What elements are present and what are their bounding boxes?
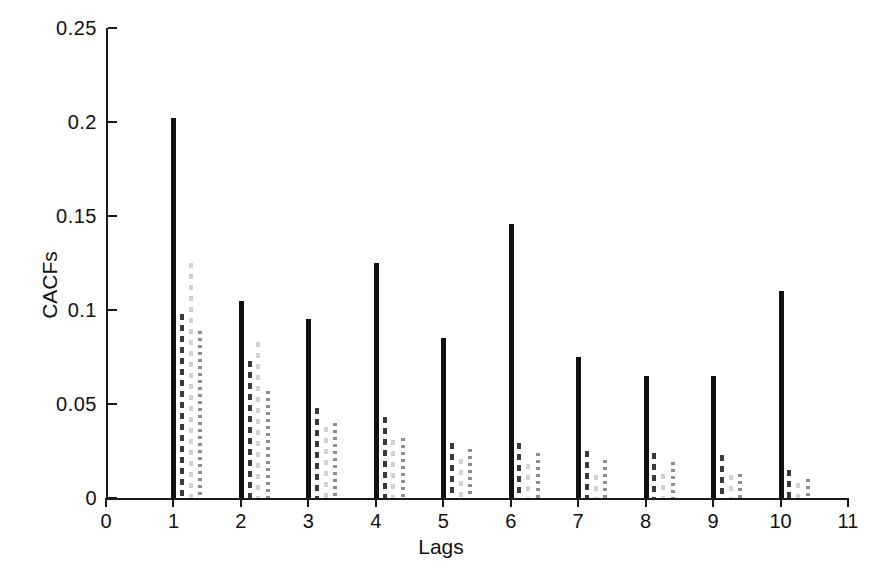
bar-lag4-solid	[374, 263, 379, 498]
bar-lag8-dotted	[671, 462, 675, 498]
bar-lag5-dotted	[468, 449, 472, 498]
bar-lag10-faint	[796, 483, 800, 498]
x-tick-mark	[712, 498, 714, 507]
bar-lag5-dashed	[450, 443, 454, 498]
bar-lag3-dashed	[315, 408, 319, 498]
x-tick-mark	[780, 498, 782, 507]
y-tick-mark	[108, 497, 117, 499]
bar-lag7-dashed	[585, 451, 589, 498]
y-tick-label: 0.15	[56, 205, 97, 228]
bar-lag5-faint	[459, 459, 463, 498]
bar-lag6-solid	[509, 224, 514, 498]
bar-lag2-dashed	[248, 361, 252, 498]
x-tick-mark	[375, 498, 377, 507]
y-tick-mark	[108, 121, 117, 123]
x-tick-label: 9	[708, 510, 719, 533]
x-tick-label: 3	[303, 510, 314, 533]
x-tick-mark	[847, 498, 849, 507]
x-tick-mark	[105, 498, 107, 507]
bar-lag9-dotted	[738, 474, 742, 498]
x-tick-mark	[577, 498, 579, 507]
bar-lag10-solid	[779, 291, 784, 498]
x-tick-mark	[307, 498, 309, 507]
x-tick-label: 6	[505, 510, 516, 533]
bar-lag8-faint	[661, 474, 665, 498]
x-tick-mark	[510, 498, 512, 507]
bar-lag8-dashed	[652, 453, 656, 498]
x-tick-label: 10	[769, 510, 791, 533]
y-tick-label: 0.25	[56, 17, 97, 40]
bar-lag4-faint	[391, 440, 395, 498]
cacf-bar-chart: CACFs Lags 00.050.10.150.20.25 012345678…	[0, 0, 882, 570]
bar-lag1-faint	[189, 263, 193, 498]
x-tick-label: 5	[438, 510, 449, 533]
bar-lag2-faint	[256, 342, 260, 498]
bar-lag3-faint	[324, 427, 328, 498]
x-axis-title: Lags	[0, 535, 882, 559]
plot-area: 00.050.10.150.20.25 01234567891011	[106, 28, 848, 500]
x-tick-mark	[442, 498, 444, 507]
x-tick-label: 2	[235, 510, 246, 533]
bar-lag6-dashed	[517, 443, 521, 498]
x-tick-mark	[645, 498, 647, 507]
x-tick-label: 1	[168, 510, 179, 533]
y-tick-label: 0.05	[56, 393, 97, 416]
x-tick-mark	[172, 498, 174, 507]
bar-lag1-dashed	[180, 314, 184, 498]
bar-lag7-faint	[594, 475, 598, 498]
bar-lag4-dotted	[401, 438, 405, 498]
bar-lag2-solid	[239, 301, 244, 498]
x-tick-label: 11	[838, 510, 859, 533]
x-tick-label: 4	[370, 510, 381, 533]
x-tick-label: 7	[573, 510, 584, 533]
y-axis-title: CACFs	[38, 251, 62, 319]
y-tick-mark	[108, 309, 117, 311]
bar-lag4-dashed	[383, 417, 387, 498]
bar-lag3-solid	[306, 319, 311, 498]
bar-lag9-dashed	[720, 455, 724, 498]
bar-lag10-dashed	[787, 470, 791, 498]
y-tick-mark	[108, 215, 117, 217]
y-tick-label: 0.2	[68, 111, 97, 134]
y-tick-mark	[108, 27, 117, 29]
x-tick-label: 8	[640, 510, 651, 533]
x-tick-label: 0	[100, 510, 111, 533]
bar-lag2-dotted	[266, 391, 270, 498]
y-tick-mark	[108, 403, 117, 405]
bar-lag1-dotted	[198, 331, 202, 498]
y-tick-label: 0.1	[68, 299, 97, 322]
bar-lag9-solid	[711, 376, 716, 498]
bar-lag5-solid	[441, 338, 446, 498]
bar-lag9-faint	[729, 475, 733, 498]
bar-lag7-dotted	[603, 460, 607, 498]
bar-lag1-solid	[171, 118, 176, 498]
bar-lag8-solid	[644, 376, 649, 498]
bar-lag6-faint	[526, 464, 530, 498]
bar-lag6-dotted	[536, 453, 540, 498]
y-tick-label: 0	[85, 487, 97, 510]
bar-lag3-dotted	[333, 423, 337, 498]
y-axis-line	[106, 28, 108, 500]
bar-lag7-solid	[576, 357, 581, 498]
bar-lag10-dotted	[806, 479, 810, 498]
x-axis-line	[106, 498, 848, 500]
x-tick-mark	[240, 498, 242, 507]
